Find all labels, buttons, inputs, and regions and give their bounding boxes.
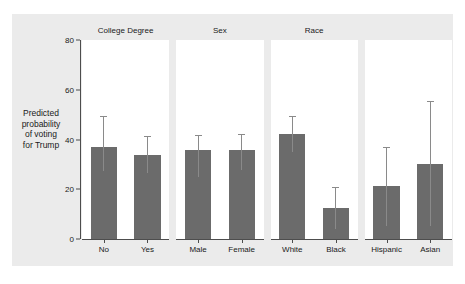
chart-screenshot: Predicted probability of voting for Trum… [0, 0, 465, 284]
x-tick-mark [147, 240, 148, 243]
error-bar [386, 147, 387, 226]
panel-title: Race [271, 26, 358, 35]
x-tick-mark [292, 240, 293, 243]
error-bar [335, 187, 336, 228]
error-bar [292, 116, 293, 153]
x-tick-label: Black [326, 245, 346, 254]
y-tick-label: 60 [65, 85, 74, 94]
error-bar-cap [195, 135, 202, 136]
error-bar-cap [289, 116, 296, 117]
panel-title: Sex [176, 26, 263, 35]
y-axis-line [80, 40, 81, 239]
panel-baseline [271, 239, 358, 240]
x-tick-mark [104, 240, 105, 243]
x-tick-label: Male [189, 245, 206, 254]
x-tick-mark [387, 240, 388, 243]
x-tick-label: White [282, 245, 302, 254]
error-bar-cap [144, 136, 151, 137]
y-tick-label: 20 [65, 185, 74, 194]
x-tick-mark [242, 240, 243, 243]
error-bar [241, 134, 242, 170]
x-tick-label: Asian [420, 245, 440, 254]
y-axis: 020406080 [56, 0, 80, 284]
x-tick-label: Female [228, 245, 255, 254]
y-tick-label: 40 [65, 135, 74, 144]
error-bar-cap [332, 187, 339, 188]
error-bar-cap [100, 116, 107, 117]
error-bar [103, 116, 104, 171]
x-tick-label: Yes [141, 245, 154, 254]
panel-baseline [82, 239, 169, 240]
error-bar-cap [427, 101, 434, 102]
panel-baseline [365, 239, 452, 240]
error-bar [147, 136, 148, 173]
x-tick-mark [430, 240, 431, 243]
x-tick-mark [198, 240, 199, 243]
error-bar-cap [238, 134, 245, 135]
x-tick-label: No [99, 245, 109, 254]
error-bar [430, 101, 431, 226]
x-tick-label: Hispanic [371, 245, 402, 254]
y-tick-label: 80 [65, 36, 74, 45]
error-bar-cap [383, 147, 390, 148]
panel-title: College Degree [82, 26, 169, 35]
panel-baseline [176, 239, 263, 240]
error-bar [198, 135, 199, 176]
x-tick-mark [336, 240, 337, 243]
y-tick-label: 0 [70, 235, 74, 244]
